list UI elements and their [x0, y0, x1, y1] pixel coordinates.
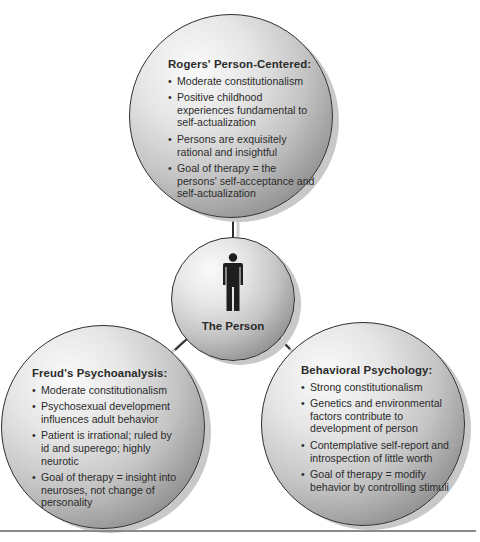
bullet-icon: • [301, 468, 305, 481]
list-item: •Genetics and environmental factors cont… [301, 397, 453, 435]
list-item: •Psychosexual development influences adu… [32, 400, 182, 425]
bullet-icon: • [301, 381, 305, 394]
list-item: •Persons are exquisitely rational and in… [168, 133, 318, 158]
bullet-icon: • [168, 162, 172, 175]
person-label: The Person [171, 320, 295, 332]
node-title: Freud's Psychoanalysis: [32, 367, 182, 380]
bullet-icon: • [32, 429, 36, 442]
node-list: •Moderate constitutionalism •Psychosexua… [32, 384, 182, 509]
bullet-icon: • [301, 397, 305, 410]
node-title: Rogers' Person-Centered: [168, 58, 318, 71]
node-behavioral: Behavioral Psychology: •Strong constitut… [301, 364, 453, 497]
bullet-icon: • [168, 91, 172, 104]
bottom-rule-divider [0, 530, 476, 532]
list-item: •Contemplative self-report and introspec… [301, 439, 453, 464]
node-list: •Strong constitutionalism •Genetics and … [301, 381, 453, 494]
node-rogers: Rogers' Person-Centered: •Moderate const… [168, 58, 318, 204]
bullet-icon: • [32, 471, 36, 484]
connector-right [279, 338, 290, 349]
bullet-icon: • [32, 384, 36, 397]
list-item: •Positive childhood experiences fundamen… [168, 91, 318, 129]
list-item: •Moderate constitutionalism [168, 75, 318, 88]
list-item: •Moderate constitutionalism [32, 384, 182, 397]
node-title: Behavioral Psychology: [301, 364, 453, 377]
bullet-icon: • [301, 439, 305, 452]
list-item: •Goal of therapy = insight into neuroses… [32, 471, 182, 509]
node-freud: Freud's Psychoanalysis: •Moderate consti… [32, 367, 182, 513]
bullet-icon: • [32, 400, 36, 413]
list-item: •Goal of therapy = modify behavior by co… [301, 468, 453, 493]
person-icon [222, 253, 244, 313]
bullet-icon: • [168, 75, 172, 88]
node-list: •Moderate constitutionalism •Positive ch… [168, 75, 318, 200]
bullet-icon: • [168, 133, 172, 146]
list-item: •Strong constitutionalism [301, 381, 453, 394]
diagram: Rogers' Person-Centered: •Moderate const… [0, 0, 480, 542]
list-item: •Goal of therapy = the persons' self-acc… [168, 162, 318, 200]
list-item: •Patient is irrational; ruled by id and … [32, 429, 182, 467]
